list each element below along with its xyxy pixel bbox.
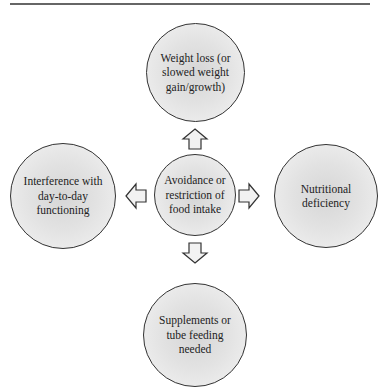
- node-interference-label: Interference with day-to-day functioning: [11, 174, 115, 218]
- arrow-right-icon: [238, 183, 260, 209]
- arrow-up-icon: [182, 128, 208, 150]
- node-avoidance-restriction-label: Avoidance or restriction of food intake: [155, 173, 235, 217]
- node-nutritional-deficiency: Nutritional deficiency: [274, 144, 378, 248]
- arrow-left-icon: [125, 183, 147, 209]
- node-interference: Interference with day-to-day functioning: [10, 143, 116, 249]
- arrow-down-icon: [182, 242, 208, 264]
- node-weight-loss: Weight loss (or slowed weight gain/growt…: [146, 23, 245, 122]
- node-supplements: Supplements or tube feeding needed: [143, 283, 247, 387]
- node-supplements-label: Supplements or tube feeding needed: [144, 313, 246, 357]
- node-weight-loss-label: Weight loss (or slowed weight gain/growt…: [147, 51, 244, 95]
- node-avoidance-restriction: Avoidance or restriction of food intake: [154, 154, 236, 236]
- top-rule: [10, 3, 370, 5]
- node-nutritional-deficiency-label: Nutritional deficiency: [275, 182, 377, 211]
